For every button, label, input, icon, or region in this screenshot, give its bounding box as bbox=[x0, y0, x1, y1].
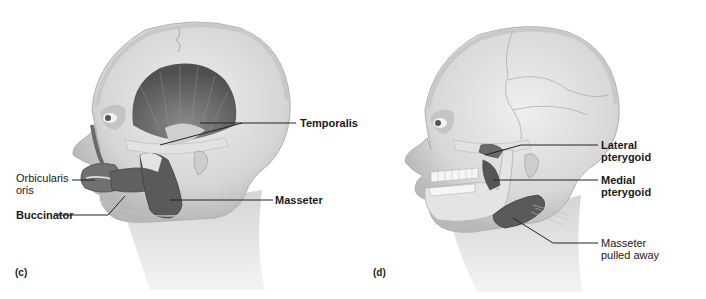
label-medial-pterygoid: Medial pterygoid bbox=[601, 174, 651, 198]
label-masseter-pulled-away-line1: Masseter bbox=[601, 237, 659, 249]
panel-letter-c: (c) bbox=[15, 267, 27, 278]
label-lateral-pterygoid-line1: Lateral bbox=[601, 139, 651, 151]
label-masseter-pulled-away: Masseter pulled away bbox=[601, 237, 659, 261]
label-temporalis: Temporalis bbox=[300, 117, 358, 129]
label-medial-pterygoid-line1: Medial bbox=[601, 174, 651, 186]
label-orbicularis-oris-line2: oris bbox=[16, 184, 69, 196]
label-medial-pterygoid-line2: pterygoid bbox=[601, 186, 651, 198]
label-lateral-pterygoid-line2: pterygoid bbox=[601, 151, 651, 163]
label-buccinator: Buccinator bbox=[16, 209, 73, 221]
label-masseter-pulled-away-line2: pulled away bbox=[601, 249, 659, 261]
label-orbicularis-oris: Orbicularis oris bbox=[16, 172, 69, 196]
panel-letter-d: (d) bbox=[373, 267, 386, 278]
panel-c: Orbicularis oris Buccinator Temporalis M… bbox=[0, 0, 353, 299]
label-orbicularis-oris-line1: Orbicularis bbox=[16, 172, 69, 184]
label-masseter: Masseter bbox=[275, 194, 323, 206]
head-illustration-c bbox=[0, 0, 353, 299]
label-lateral-pterygoid: Lateral pterygoid bbox=[601, 139, 651, 163]
panel-d: Lateral pterygoid Medial pterygoid Masse… bbox=[353, 0, 706, 299]
